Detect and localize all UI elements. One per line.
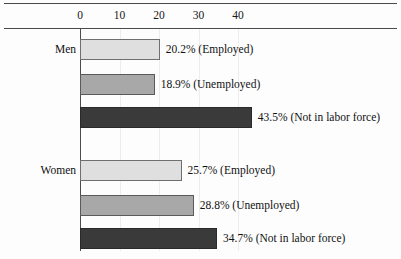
x-axis-tick-0: 0: [77, 8, 83, 23]
bar-chart: 010203040 MenWomen20.2% (Employed)18.9% …: [0, 0, 401, 259]
bar-label-women-not-in-labor-force: 34.7% (Not in labor force): [223, 231, 345, 245]
bar-women-unemployed: [80, 195, 194, 216]
bar-label-men-not-in-labor-force: 43.5% (Not in labor force): [258, 110, 380, 124]
x-axis-tick-40: 40: [232, 8, 244, 23]
bar-label-women-employed: 25.7% (Employed): [188, 163, 276, 177]
gridline-30: [199, 29, 200, 251]
group-label-women: Women: [41, 163, 76, 177]
bar-men-not-in-labor-force: [80, 107, 252, 128]
group-label-men: Men: [55, 42, 76, 56]
x-axis-tick-20: 20: [153, 8, 165, 23]
y-axis-line: [80, 29, 81, 251]
bar-women-not-in-labor-force: [80, 228, 217, 249]
bar-men-unemployed: [80, 74, 155, 95]
gridline-20: [159, 29, 160, 251]
bar-label-men-unemployed: 18.9% (Unemployed): [161, 77, 261, 91]
bar-label-women-unemployed: 28.8% (Unemployed): [200, 198, 300, 212]
x-axis-tick-labels: 010203040: [0, 8, 401, 26]
x-axis-tick-30: 30: [193, 8, 205, 23]
bar-men-employed: [80, 39, 160, 60]
bar-label-men-employed: 20.2% (Employed): [166, 42, 254, 56]
gridline-10: [120, 29, 121, 251]
bar-women-employed: [80, 160, 182, 181]
chart-top-rule: [4, 3, 397, 4]
plot-area: MenWomen20.2% (Employed)18.9% (Unemploye…: [0, 29, 401, 255]
x-axis-tick-10: 10: [114, 8, 126, 23]
gridline-40: [238, 29, 239, 251]
